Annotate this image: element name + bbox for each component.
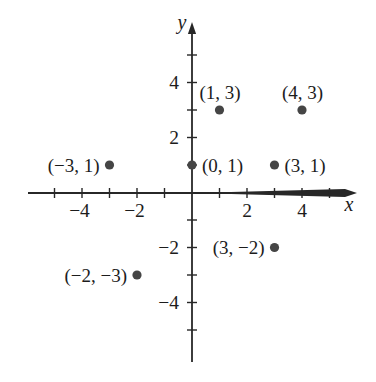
data-point: [270, 160, 279, 169]
data-point: [105, 160, 114, 169]
point-label: (−3, 1): [48, 155, 100, 177]
data-point: [297, 105, 306, 114]
point-label: (1, 3): [199, 82, 240, 104]
y-axis-label: y: [176, 11, 187, 34]
y-tick-label: 4: [169, 72, 179, 93]
y-tick-label: −4: [158, 292, 179, 313]
point-label: (4, 3): [282, 82, 323, 104]
y-tick-label: −2: [158, 237, 179, 258]
point-label: (3, −2): [213, 237, 265, 259]
x-tick-label: 2: [242, 200, 252, 221]
data-point: [187, 160, 196, 169]
data-point: [132, 270, 141, 279]
data-point: [270, 243, 279, 252]
y-axis-arrow: [188, 22, 196, 34]
point-label: (3, 1): [285, 155, 326, 177]
point-label: (−2, −3): [64, 265, 127, 287]
point-label: (0, 1): [202, 155, 243, 177]
y-tick-label: 2: [169, 127, 179, 148]
figure: −4−22442−2−4xy(1, 3)(4, 3)(−3, 1)(0, 1)(…: [0, 0, 376, 382]
x-tick-label: −2: [124, 200, 145, 221]
x-tick-label: −4: [69, 200, 90, 221]
x-axis-label: x: [344, 193, 354, 215]
data-point: [215, 105, 224, 114]
coordinate-plane: −4−22442−2−4xy(1, 3)(4, 3)(−3, 1)(0, 1)(…: [0, 0, 376, 382]
x-tick-label: 4: [297, 200, 307, 221]
